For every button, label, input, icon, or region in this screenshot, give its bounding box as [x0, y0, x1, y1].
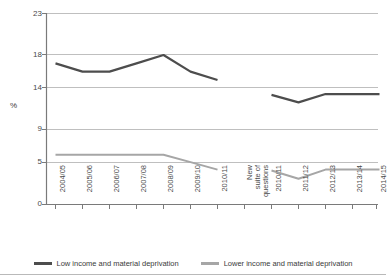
y-tick-marks	[42, 14, 46, 205]
legend-item-low-income: Low income and material deprivation	[34, 259, 179, 268]
x-tick-label-2014-15: 2014/15	[380, 165, 388, 211]
legend-item-lower-income: Lower income and material deprivation	[201, 259, 353, 268]
x-tick-label-2008-09: 2008/09	[167, 165, 175, 211]
series-line-0	[272, 94, 380, 102]
gridlines	[46, 14, 378, 163]
series-layer	[56, 55, 380, 179]
legend-swatch-dark	[34, 262, 52, 265]
series-line-0	[56, 55, 218, 80]
chart-legend: Low income and material deprivation Lowe…	[0, 256, 386, 270]
x-tick-label-2012-13: 2012/13	[329, 165, 337, 211]
x-tick-label-2010-11-new: 2010/11	[275, 165, 283, 211]
x-tick-label-2006-07: 2006/07	[113, 165, 121, 211]
x-tick-label-2011-12: 2011/12	[302, 165, 310, 211]
x-tick-label-2004-05: 2004/05	[59, 165, 67, 211]
new-suite-of-questions-annotation: New suite of questions	[240, 211, 286, 225]
x-tick-label-2005-06: 2005/06	[86, 165, 94, 211]
legend-label-lower-income: Lower income and material deprivation	[224, 259, 353, 268]
x-tick-label-2009-10: 2009/10	[194, 165, 202, 211]
x-tick-label-2013-14: 2013/14	[356, 165, 364, 211]
footer-divider	[0, 274, 386, 275]
x-tick-label-2007-08: 2007/08	[140, 165, 148, 211]
x-tick-label-2010-11-old: 2010/11	[221, 165, 229, 211]
legend-label-low-income: Low income and material deprivation	[57, 259, 179, 268]
legend-swatch-light	[201, 262, 219, 265]
break-line-3: questions	[262, 165, 270, 211]
